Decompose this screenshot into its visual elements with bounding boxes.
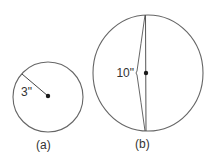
diagram-canvas — [0, 0, 218, 158]
circle-b-center-dot — [144, 71, 148, 75]
circle-a-center-dot — [46, 94, 50, 98]
circle-b-diameter-brace — [136, 15, 145, 131]
diameter-label-b: 10" — [116, 67, 134, 79]
circles-diagram: 3" 10" (a) (b) — [0, 0, 218, 158]
caption-a: (a) — [36, 139, 51, 151]
circle-b-group — [93, 15, 203, 131]
caption-b: (b) — [135, 138, 150, 150]
radius-label-a: 3" — [21, 86, 32, 98]
